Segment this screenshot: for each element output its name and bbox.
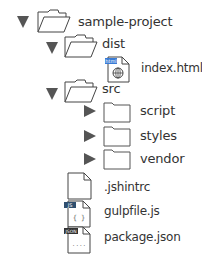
open-folder-icon [63, 33, 99, 59]
svg-text:JS: JS [67, 202, 73, 208]
json-file-icon: JSON .... [63, 226, 93, 254]
tree-label-sample-project[interactable]: sample-project [78, 14, 172, 29]
tree-label-src[interactable]: src [102, 81, 120, 96]
svg-text:....: .... [72, 240, 86, 247]
html-file-icon: html [104, 56, 132, 83]
tree-label-package-json[interactable]: package.json [104, 230, 181, 244]
tree-label-vendor[interactable]: vendor [140, 151, 184, 166]
closed-folder-icon [102, 101, 132, 123]
expand-toggle-sample-project[interactable] [17, 16, 29, 28]
expand-toggle-vendor[interactable] [84, 153, 96, 165]
file-icon [66, 172, 94, 200]
tree-label-script[interactable]: script [140, 103, 175, 118]
expand-toggle-styles[interactable] [84, 130, 96, 142]
closed-folder-icon [102, 125, 132, 147]
tree-label-dist[interactable]: dist [102, 36, 125, 51]
tree-label-gulpfile-js[interactable]: gulpfile.js [104, 204, 160, 218]
js-file-icon: JS { } [63, 200, 93, 228]
tree-label-index-html[interactable]: index.html [141, 61, 202, 75]
svg-text:{ }: { } [73, 214, 86, 222]
tree-label-jshintrc[interactable]: .jshintrc [104, 180, 150, 194]
expand-toggle-script[interactable] [84, 105, 96, 117]
closed-folder-icon [102, 148, 132, 170]
svg-text:JSON: JSON [64, 229, 76, 234]
expand-toggle-src[interactable] [46, 88, 58, 100]
open-folder-icon [63, 78, 99, 104]
open-folder-icon [36, 8, 72, 34]
expand-toggle-dist[interactable] [46, 42, 58, 54]
tree-label-styles[interactable]: styles [140, 128, 177, 143]
svg-text:html: html [105, 58, 116, 64]
